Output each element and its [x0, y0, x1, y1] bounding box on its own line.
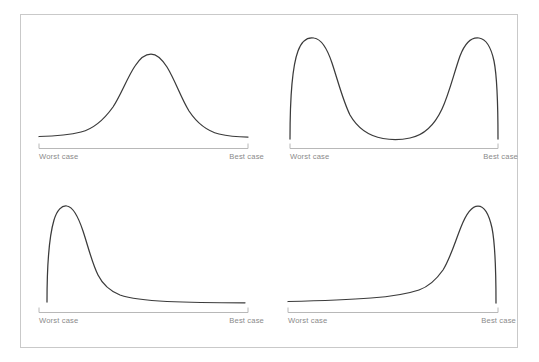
bimodal-u-curve-plot	[279, 23, 507, 171]
axis-label-best-case: Best case	[229, 153, 264, 161]
left-skewed-curve-plot	[279, 187, 507, 335]
right-skewed-curve	[47, 206, 245, 303]
axis-label-best-case: Best case	[229, 317, 264, 325]
axis-bracket	[288, 308, 498, 313]
panel-left-skewed: Worst case Best case	[279, 187, 507, 335]
axis-bracket	[39, 144, 248, 149]
panel-bimodal-u: Worst case Best case	[279, 23, 507, 171]
axis-label-row: Worst case Best case	[279, 317, 519, 325]
axis-label-row: Worst case Best case	[279, 153, 521, 161]
axis-label-row: Worst case Best case	[29, 317, 267, 325]
axis-bracket	[39, 308, 248, 313]
axis-label-worst-case: Worst case	[288, 317, 327, 325]
right-skewed-curve-plot	[29, 187, 254, 335]
axis-label-worst-case: Worst case	[39, 153, 78, 161]
axis-label-row: Worst case Best case	[29, 153, 267, 161]
bimodal-u-curve	[290, 38, 498, 140]
symmetric-bell-curve-plot	[29, 23, 254, 171]
axis-label-worst-case: Worst case	[290, 153, 329, 161]
axis-label-best-case: Best case	[483, 153, 518, 161]
left-skewed-curve	[288, 206, 496, 303]
figure-frame: Worst case Best case Worst case Best cas…	[20, 14, 518, 348]
axis-bracket	[290, 144, 498, 149]
symmetric-bell-curve	[39, 54, 248, 137]
axis-label-worst-case: Worst case	[39, 317, 78, 325]
panel-right-skewed: Worst case Best case	[29, 187, 254, 335]
axis-label-best-case: Best case	[481, 317, 516, 325]
panel-symmetric-bell: Worst case Best case	[29, 23, 254, 171]
